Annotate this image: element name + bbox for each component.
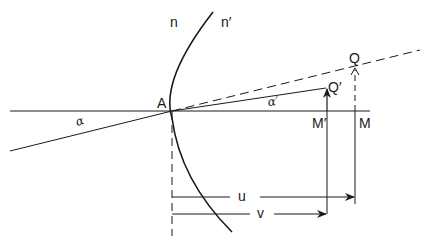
label-M-prime: M′	[312, 115, 327, 131]
label-u: u	[238, 188, 246, 204]
label-A: A	[157, 95, 167, 111]
label-M: M	[359, 115, 371, 131]
label-alpha: α	[74, 113, 86, 129]
label-n-prime: n′	[221, 14, 232, 30]
refracted-ray	[172, 88, 326, 111]
virtual-ray-dashed	[172, 50, 420, 111]
label-Q-prime: Q′	[328, 79, 342, 95]
refraction-diagram: n n′ A Q Q′ M′ M u v α α′	[0, 0, 424, 236]
refracting-surface	[170, 12, 232, 232]
label-n: n	[170, 14, 178, 30]
label-alpha-prime: α′	[267, 94, 280, 109]
incident-ray	[10, 111, 172, 151]
label-Q: Q	[349, 50, 360, 66]
label-v: v	[257, 205, 264, 221]
object-arrowhead-Q	[351, 68, 359, 75]
